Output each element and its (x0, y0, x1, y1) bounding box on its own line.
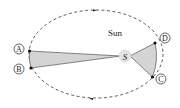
point-c-label: C (156, 74, 166, 84)
point-d-dot (153, 41, 156, 44)
point-d-label: D (160, 33, 170, 43)
orbit-diagram: S Sun A B D C (0, 0, 180, 108)
focus-label: S (123, 52, 128, 62)
sector-dc (130, 43, 157, 77)
point-c-dot (151, 75, 154, 78)
point-b-label: B (14, 64, 24, 74)
orbit-arrow-bottom-icon (89, 98, 93, 100)
point-a-dot (28, 49, 31, 52)
sun-label: Sun (108, 28, 123, 38)
svg-text:A: A (16, 45, 22, 54)
point-a-label: A (14, 44, 24, 54)
svg-text:D: D (162, 34, 168, 43)
point-b-dot (29, 66, 32, 69)
sector-ab (29, 51, 121, 68)
svg-text:C: C (158, 75, 163, 84)
svg-text:B: B (16, 65, 21, 74)
